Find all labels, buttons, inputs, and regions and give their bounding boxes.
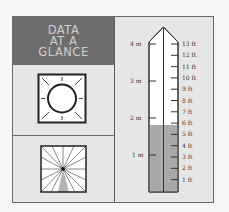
water-level-gauge: 4 m 3 m 2 m 1 m 13 ft 12 ft	[115, 17, 213, 202]
ft-label-11: 11 ft	[182, 63, 197, 70]
left-column: DATA AT A GLANCE	[13, 17, 115, 202]
metric-label-3m: 3 m	[130, 77, 142, 84]
ft-label-10: 10 ft	[182, 74, 197, 81]
ft-label-1: 1 ft	[182, 176, 193, 183]
ft-label-12: 12 ft	[182, 51, 197, 58]
shade-rays-icon	[13, 136, 114, 202]
metric-label-1m: 1 m	[132, 151, 144, 158]
ft-label-9: 9 ft	[182, 85, 193, 92]
metric-label-4m: 4 m	[130, 40, 142, 47]
ft-label-2: 2 ft	[182, 164, 193, 171]
ft-label-4: 4 ft	[182, 142, 193, 149]
title-line-3: GLANCE	[38, 47, 88, 58]
metric-label-2m: 2 m	[130, 114, 142, 121]
gauge-graphic: 4 m 3 m 2 m 1 m 13 ft 12 ft	[115, 17, 213, 202]
ft-label-8: 8 ft	[182, 97, 193, 104]
data-at-a-glance-panel: DATA AT A GLANCE	[12, 16, 214, 203]
title-block: DATA AT A GLANCE	[13, 17, 114, 65]
sun-icon	[13, 65, 114, 135]
ft-label-3: 3 ft	[182, 153, 193, 160]
ft-label-5: 5 ft	[182, 130, 193, 137]
shade-panel	[13, 136, 114, 202]
ft-label-6: 6 ft	[182, 119, 193, 126]
ft-label-13: 13 ft	[182, 40, 197, 47]
ft-label-7: 7 ft	[182, 108, 193, 115]
sun-panel	[13, 65, 114, 136]
